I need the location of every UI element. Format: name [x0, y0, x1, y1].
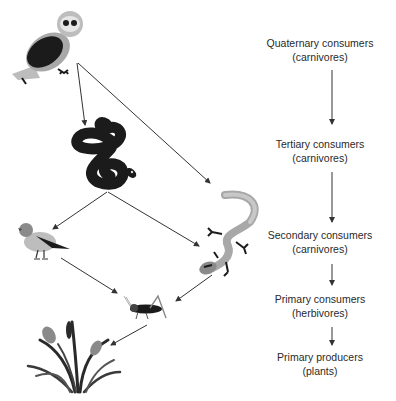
level-title: Primary consumers: [245, 293, 395, 307]
level-quaternary: Quaternary consumers (carnivores): [245, 37, 395, 64]
level-primary-consumers: Primary consumers (herbivores): [245, 293, 395, 320]
level-subtitle: (plants): [245, 365, 395, 379]
level-tertiary: Tertiary consumers (carnivores): [245, 138, 395, 165]
food-web-arrows: [53, 63, 212, 345]
level-primary-producers: Primary producers (plants): [245, 351, 395, 378]
level-secondary: Secondary consumers (carnivores): [245, 229, 395, 256]
plants-icon: [28, 321, 120, 392]
level-title: Tertiary consumers: [245, 138, 395, 152]
arrow-lizard-to-grasshopper: [176, 275, 212, 301]
snake-icon: [77, 122, 138, 184]
level-title: Primary producers: [245, 351, 395, 365]
level-subtitle: (herbivores): [245, 307, 395, 321]
arrow-grasshopper-to-plants: [111, 325, 147, 345]
owl-icon: [12, 11, 83, 84]
arrow-snake-to-lizard: [108, 192, 199, 246]
level-subtitle: (carnivores): [245, 152, 395, 166]
level-title: Secondary consumers: [245, 229, 395, 243]
food-chain-diagram: Quaternary consumers (carnivores) Tertia…: [0, 0, 396, 401]
arrow-owl-to-snake: [77, 63, 85, 125]
arrow-bird-to-grasshopper: [61, 258, 117, 293]
level-subtitle: (carnivores): [245, 51, 395, 65]
arrow-snake-to-bird: [53, 192, 107, 229]
level-title: Quaternary consumers: [245, 37, 395, 51]
bird-icon: [18, 223, 70, 259]
grasshopper-icon: [124, 296, 166, 319]
level-subtitle: (carnivores): [245, 243, 395, 257]
